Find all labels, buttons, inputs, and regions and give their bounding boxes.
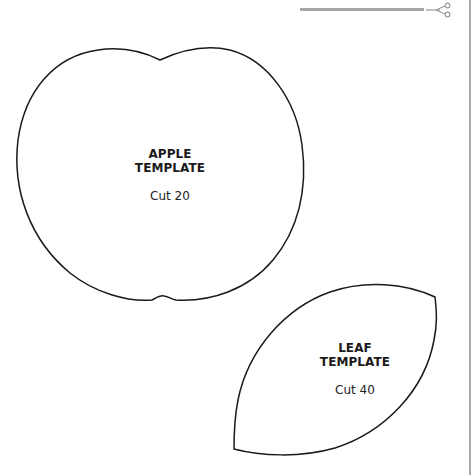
apple-cut-instruction: Cut 20 — [110, 189, 230, 203]
template-page: APPLE TEMPLATE Cut 20 LEAF TEMPLATE Cut … — [0, 0, 472, 475]
apple-title-line2: TEMPLATE — [110, 161, 230, 175]
apple-title-line1: APPLE — [110, 147, 230, 161]
leaf-title-line1: LEAF — [295, 341, 415, 355]
leaf-template-label: LEAF TEMPLATE Cut 40 — [295, 341, 415, 397]
leaf-cut-instruction: Cut 40 — [295, 383, 415, 397]
apple-template-label: APPLE TEMPLATE Cut 20 — [110, 147, 230, 203]
leaf-title-line2: TEMPLATE — [295, 355, 415, 369]
